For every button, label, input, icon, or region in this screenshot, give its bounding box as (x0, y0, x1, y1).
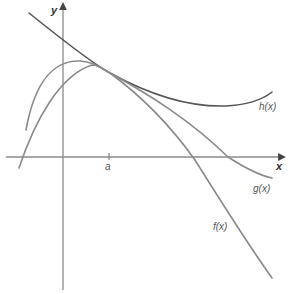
y-axis-label: y (50, 4, 58, 16)
label-g: g(x) (253, 183, 270, 194)
x-axis-label: x (275, 160, 283, 172)
tick-label-a: a (105, 161, 111, 172)
label-f: f(x) (213, 221, 227, 232)
graph-canvas: y x a h(x) g(x) f(x) (0, 0, 291, 294)
curve-h (29, 13, 272, 106)
label-h: h(x) (259, 101, 276, 112)
curve-f (19, 65, 272, 278)
